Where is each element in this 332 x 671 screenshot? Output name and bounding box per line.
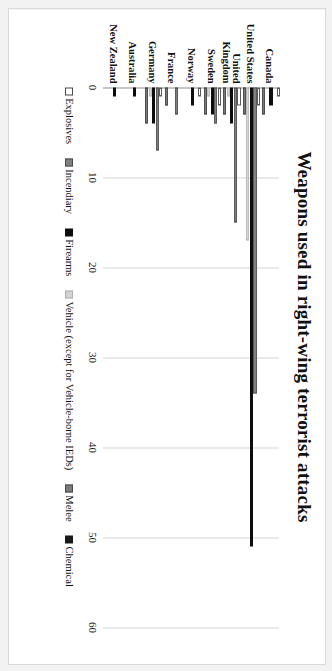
legend-item-firearms: Firearms [64,228,75,276]
category-label: Norway [186,11,197,83]
x-tick-label: 10 [87,172,99,183]
legend-label: Incendiary [64,169,75,214]
legend-item-melee: Melee [64,484,75,521]
rotated-chart-wrapper: Weapons used in right-wing terrorist att… [9,9,325,664]
x-tick-label: 20 [87,262,99,273]
legend-label: Melee [64,495,75,521]
explosives-swatch-icon [66,87,74,95]
category-label: New Zealand [108,11,119,83]
melee-swatch-icon [66,484,74,492]
incendiary-swatch-icon [66,158,74,166]
category-label: Sweden [205,11,216,83]
y-axis-category-labels: CanadaUnited StatesUnited KingdomSwedenN… [103,87,279,627]
bar-chart: Weapons used in right-wing terrorist att… [9,9,325,664]
firearms-swatch-icon [66,228,74,236]
category-label: Germany [147,11,158,83]
x-tick-label: 60 [87,622,99,633]
legend-label: Chemical [64,546,75,586]
chemical-swatch-icon [66,535,74,543]
x-axis-tick-labels: 0102030405060 [81,87,99,627]
screenshot-canvas: Weapons used in right-wing terrorist att… [0,0,332,671]
chart-title: Weapons used in right-wing terrorist att… [293,9,315,664]
category-label: United States [244,11,255,83]
legend-item-chemical: Chemical [64,535,75,586]
legend-item-incendiary: Incendiary [64,158,75,214]
x-tick-label: 50 [87,532,99,543]
legend-item-vehicle: Vehicle (except for Vehicle-borne IEDs) [64,290,75,470]
legend-label: Vehicle (except for Vehicle-borne IEDs) [64,301,75,470]
x-tick-label: 30 [87,352,99,363]
category-label: United Kingdom [220,11,241,83]
vehicle-swatch-icon [66,290,74,298]
x-tick-label: 40 [87,442,99,453]
chart-page-card: Weapons used in right-wing terrorist att… [8,8,326,665]
legend-label: Explosives [64,98,75,144]
chart-legend: ExplosivesIncendiaryFirearmsVehicle (exc… [35,9,75,664]
category-label: Australia [127,11,138,83]
legend-label: Firearms [64,239,75,276]
legend-item-explosives: Explosives [64,87,75,144]
x-tick-label: 0 [87,84,99,90]
category-label: Canada [264,11,275,83]
category-label: France [166,11,177,83]
